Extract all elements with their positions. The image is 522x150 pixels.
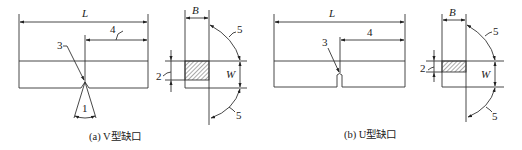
depth-callout: 2 — [156, 70, 162, 82]
side-view-a: L 4 3 1 — [19, 7, 148, 118]
offset-callout: 4 — [110, 23, 116, 35]
thickness-label: B — [192, 4, 199, 16]
length-label-b: L — [328, 7, 335, 19]
cross-section-b: B 2 W 5 5 — [420, 6, 504, 122]
width-label-b: W — [481, 68, 491, 80]
notch-callout-b: 3 — [322, 36, 328, 48]
cross-section-a: B 2 W 5 5 — [156, 4, 247, 125]
caption-b: (b) U型缺口 — [344, 128, 396, 141]
side-view-b: L 4 3 — [274, 7, 405, 87]
thickness-label-b: B — [449, 6, 456, 18]
figure-b-u-notch: L 4 3 B 2 W — [274, 6, 504, 141]
squareness-callout-bottom-b: 5 — [492, 110, 498, 122]
offset-callout-b: 4 — [367, 26, 373, 38]
squareness-callout-top: 5 — [237, 23, 243, 35]
caption-a: (a) V型缺口 — [89, 130, 141, 143]
notch-callout: 3 — [57, 39, 63, 51]
length-label: L — [81, 7, 88, 19]
hatched-section — [185, 61, 209, 80]
notch-specimen-diagram: L 4 3 1 B — [0, 0, 522, 150]
angle-callout: 1 — [82, 102, 88, 114]
hatched-section-b — [442, 61, 466, 72]
figure-a-v-notch: L 4 3 1 B — [19, 4, 247, 143]
squareness-callout-top-b: 5 — [493, 25, 499, 37]
squareness-callout-bottom: 5 — [236, 109, 242, 121]
depth-callout-b: 2 — [420, 62, 426, 74]
width-label: W — [226, 68, 236, 80]
